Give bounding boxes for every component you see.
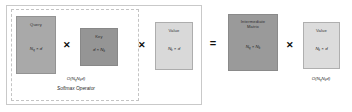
matrix-key-dimensions: d × Nk xyxy=(93,47,105,53)
matrix-value-label: Value xyxy=(169,28,180,33)
matrix-value-right: Value Nk × d xyxy=(303,22,340,69)
dim-rest: × d xyxy=(320,46,327,51)
matrix-value-dimensions: Nk × d xyxy=(168,46,180,52)
complexity-annotation-right: O(NqNkd) xyxy=(275,76,352,82)
dim-rest: × N xyxy=(251,44,259,49)
dim-subscript: k xyxy=(104,49,106,53)
multiply-operator-icon: ✕ xyxy=(136,41,148,50)
matrix-value-right-label: Value xyxy=(316,28,327,33)
dim-subscript: q xyxy=(33,48,35,52)
matrix-value: Value Nk × d xyxy=(155,22,193,70)
dim-subscript: q xyxy=(249,46,251,50)
complexity-sub-1: q xyxy=(75,78,77,82)
complexity-annotation-left: O(NqNkd) xyxy=(30,76,122,82)
complexity-sub-1: q xyxy=(320,78,322,82)
matrix-query-dimensions: Nq × d xyxy=(30,46,42,52)
multiply-operator-icon: ✕ xyxy=(61,41,73,50)
matrix-key-label: Key xyxy=(95,34,103,39)
complexity-post: d) xyxy=(81,76,85,81)
dim-base: d × N xyxy=(93,47,104,52)
equals-operator-icon: = xyxy=(206,38,220,49)
dim-subscript-2: k xyxy=(259,46,261,50)
matrix-intermediate-label-line2: Matrix xyxy=(247,25,259,30)
matrix-key: Key d × Nk xyxy=(80,28,118,66)
matrix-query: Query Nq × d xyxy=(16,16,56,74)
complexity-pre: O(N xyxy=(67,76,75,81)
matrix-intermediate: Intermediate Matrix Nq × Nk xyxy=(228,14,278,71)
dim-subscript: k xyxy=(171,48,173,52)
complexity-pre: O(N xyxy=(312,76,320,81)
multiply-operator-icon: ✕ xyxy=(284,41,296,50)
dim-rest: × d xyxy=(173,46,180,51)
dim-subscript: k xyxy=(319,48,321,52)
complexity-post: d) xyxy=(326,76,330,81)
attention-complexity-diagram: Query Nq × d ✕ Key d × Nk ✕ Value Nk × d… xyxy=(0,0,352,112)
softmax-operator-caption: Softmax Operator xyxy=(20,86,132,92)
matrix-query-label: Query xyxy=(30,22,42,27)
matrix-intermediate-dimensions: Nq × Nk xyxy=(246,44,261,50)
dim-rest: × d xyxy=(35,46,42,51)
matrix-value-right-dimensions: Nk × d xyxy=(315,46,327,52)
